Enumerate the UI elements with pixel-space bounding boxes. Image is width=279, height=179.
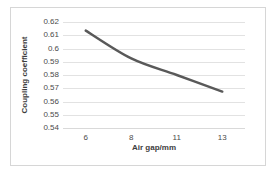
y-axis-title: Coupling coefficient <box>19 22 31 128</box>
y-axis-tick-label: 0.57 <box>43 84 59 92</box>
plot-area: 0.540.550.560.570.580.590.60.610.62 6811… <box>63 22 245 128</box>
y-axis-tick-label: 0.56 <box>43 98 59 106</box>
y-axis-tick-label: 0.59 <box>43 58 59 66</box>
y-axis-tick-label: 0.6 <box>48 45 59 53</box>
x-axis-tick-label: 6 <box>84 134 88 142</box>
series-path <box>86 31 223 92</box>
x-axis-tick-label: 8 <box>129 134 133 142</box>
y-axis-tick-label: 0.55 <box>43 111 59 119</box>
gridline <box>63 128 245 129</box>
x-axis-title: Air gap/mm <box>63 144 245 152</box>
chart-container: Coupling coefficient 0.540.550.560.570.5… <box>10 7 266 166</box>
series-line-coupling-coefficient <box>63 22 245 128</box>
y-axis-tick-label: 0.62 <box>43 18 59 26</box>
x-axis-tick-label: 11 <box>173 134 181 142</box>
y-axis-tick-label: 0.54 <box>43 124 59 132</box>
y-axis-tick-label: 0.58 <box>43 71 59 79</box>
x-axis-tick-label: 13 <box>218 134 227 142</box>
y-axis-title-text: Coupling coefficient <box>21 37 29 114</box>
y-axis-tick-label: 0.61 <box>43 31 59 39</box>
